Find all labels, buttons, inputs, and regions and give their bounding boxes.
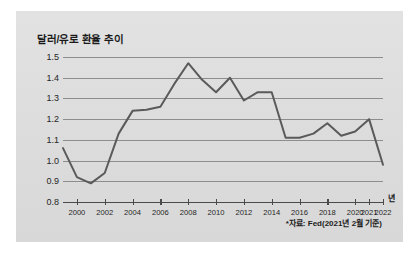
- x-axis-tick-label: 2018: [319, 208, 336, 217]
- source-note: *자료: Fed(2021년 2월 기준): [286, 217, 382, 228]
- page-title: 달러/유로 환율 추이: [37, 31, 124, 46]
- x-axis-line: [63, 202, 383, 203]
- data-series-path: [63, 63, 383, 183]
- x-axis-tick: [383, 199, 384, 205]
- x-axis-tick-label: 2000: [68, 208, 85, 217]
- y-axis-tick-label: 1.4: [46, 73, 59, 83]
- y-axis-tick-label: 1.1: [46, 135, 59, 145]
- y-axis-tick-label: 1.3: [46, 93, 59, 103]
- y-axis-tick-label: 0.8: [46, 197, 59, 207]
- x-axis-tick-label: 2012: [235, 208, 252, 217]
- x-axis-unit-label: 년: [388, 192, 395, 203]
- plot-area: 1.51.41.31.21.11.00.90.8 200020022004200…: [63, 57, 383, 202]
- x-axis-tick-label: 2002: [96, 208, 113, 217]
- x-axis-tick-label: 2016: [291, 208, 308, 217]
- x-axis-tick-label: 2022: [375, 208, 392, 217]
- x-axis-tick-label: 2006: [152, 208, 169, 217]
- x-axis-tick-label: 2004: [124, 208, 141, 217]
- x-axis-tick-label: 2014: [263, 208, 280, 217]
- series-line: [63, 57, 383, 202]
- y-axis-tick-label: 1.5: [46, 52, 59, 62]
- x-axis-tick-label: 2010: [208, 208, 225, 217]
- x-axis-tick-label: 2008: [180, 208, 197, 217]
- y-axis-tick-label: 1.2: [46, 114, 59, 124]
- y-axis-tick-label: 1.0: [46, 156, 59, 166]
- y-axis-tick-label: 0.9: [46, 176, 59, 186]
- chart-card: 달러/유로 환율 추이 1.51.41.31.21.11.00.90.8 200…: [16, 11, 403, 242]
